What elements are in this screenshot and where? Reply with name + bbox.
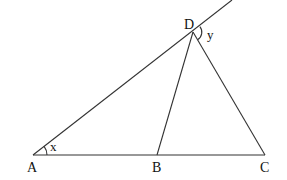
ray-ad-extended (33, 0, 232, 155)
angle-arc-x (44, 146, 47, 155)
angle-label-y: y (207, 27, 214, 42)
angle-arc-y (198, 27, 202, 40)
point-label-b: B (152, 160, 161, 175)
point-label-a: A (27, 160, 38, 175)
segment-bd (157, 32, 193, 155)
point-label-d: D (184, 17, 194, 32)
point-label-c: C (260, 160, 269, 175)
angle-label-x: x (50, 139, 57, 154)
geometry-diagram: A B C D x y (0, 0, 287, 180)
segment-cd (193, 32, 265, 155)
